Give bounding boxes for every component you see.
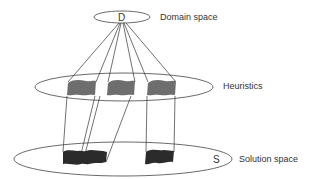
domain-label: Domain space [160,12,218,22]
solution-region-2 [145,150,174,164]
heuristics-label: Heuristics [223,81,263,91]
solution-ellipse [14,142,232,176]
heuristic-region-2 [107,80,135,95]
heuristic-region-3 [147,80,176,95]
solution-region-1 [63,150,107,165]
heuristic-regions [67,80,176,95]
solution-label: Solution space [239,154,298,164]
solution-regions [63,150,174,165]
domain-marker: D [118,12,125,23]
heuristic-region-1 [67,80,96,95]
domain-space: D Domain space [94,11,218,23]
heuristics-mapping-diagram: D Domain space Heuristics S Solution spa… [0,0,319,179]
solution-marker: S [213,154,220,165]
